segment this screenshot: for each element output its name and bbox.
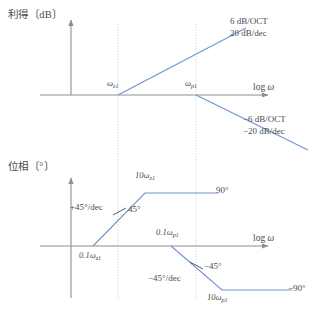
phase-mid-positive: 45° <box>128 205 141 214</box>
gain-x-axis-title: log ω <box>253 83 274 93</box>
gain-omega-symbol: ω <box>268 82 275 92</box>
gain-slope-upper-2: 20 dB/dec <box>230 29 267 38</box>
gain-slope-lower-2: −20 dB/dec <box>243 127 285 136</box>
gain-break-omega-p1: ωp1 <box>185 79 197 88</box>
phase-zero-curve <box>93 193 218 246</box>
phase-pole-start-label: 0.1ωp1 <box>156 228 179 237</box>
phase-log-text: log <box>253 233 265 243</box>
gain-zero-asymptote <box>118 28 246 95</box>
gain-break-omega-z1: ωz1 <box>107 79 119 88</box>
phase-plateau-positive: 90° <box>216 186 229 195</box>
gain-log-text: log <box>253 82 265 92</box>
phase-plateau-negative: −90° <box>288 284 306 293</box>
phase-slope-negative: −45°/dec <box>148 274 181 283</box>
phase-pole-curve <box>171 246 292 290</box>
gain-axis-title: 利得〔dB〕 <box>8 10 63 21</box>
phase-zero-end-label: 10ωz1 <box>135 171 155 180</box>
phase-zero-start-label: 0.1ωz1 <box>79 251 101 260</box>
gain-slope-lower-1: −6 dB/OCT <box>243 115 286 124</box>
phase-slope-positive: +45°/dec <box>70 203 103 212</box>
gain-slope-upper-1: 6 dB/OCT <box>230 17 268 26</box>
phase-pole-end-label: 10ωp1 <box>207 293 228 302</box>
phase-omega-symbol: ω <box>268 233 275 243</box>
phase-axis-title: 位相〔°〕 <box>8 162 54 173</box>
phase-mid-negative: −45° <box>204 262 222 271</box>
bode-plot-figure <box>0 0 322 313</box>
phase-x-axis-title: log ω <box>253 234 274 244</box>
